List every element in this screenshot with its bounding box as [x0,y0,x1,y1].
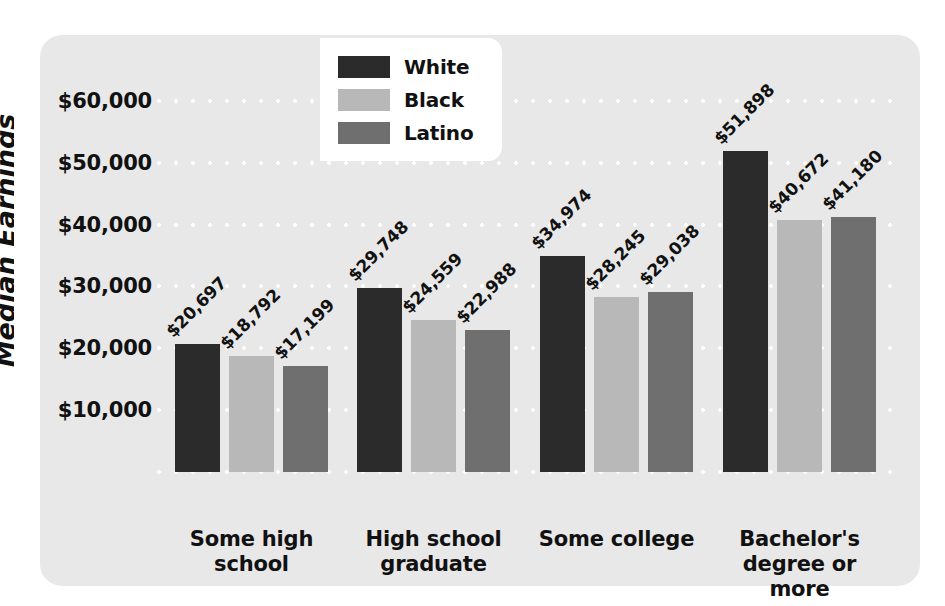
bar-value-label: $40,672 [764,149,832,217]
bar[interactable]: $51,898 [723,151,768,472]
legend-item-label: White [404,55,469,79]
y-axis-tick-label: $10,000 [2,398,152,422]
bar[interactable]: $18,792 [229,356,274,472]
bar-value-label: $28,245 [581,226,649,294]
y-axis: $10,000$20,000$30,000$40,000$50,000$60,0… [2,70,152,472]
bar[interactable]: $17,199 [283,366,328,472]
legend-item-latino[interactable]: Latino [338,116,502,149]
bar[interactable]: $24,559 [411,320,456,472]
legend-item-label: Black [404,88,464,112]
plot-area: $10,000$20,000$30,000$40,000$50,000$60,0… [157,70,903,472]
legend-swatch-icon [338,56,390,78]
category-label: Bachelor'sdegree ormore [690,527,910,601]
chart-card: $10,000$20,000$30,000$40,000$50,000$60,0… [40,35,920,586]
bar[interactable]: $41,180 [831,217,876,472]
bar-value-label: $29,038 [635,221,703,289]
legend-item-white[interactable]: White [338,50,502,83]
bar-value-label: $34,974 [527,184,595,252]
y-axis-tick-label: $20,000 [2,336,152,360]
legend-item-label: Latino [404,121,473,145]
bar-value-label: $29,748 [344,217,412,285]
category-label-line: Bachelor's [690,527,910,552]
legend-swatch-icon [338,122,390,144]
bar-value-label: $51,898 [710,80,778,148]
legend-swatch-icon [338,89,390,111]
bar[interactable]: $29,038 [648,292,693,472]
bar[interactable]: $20,697 [175,344,220,472]
bar[interactable]: $34,974 [540,256,585,472]
bar-value-label: $41,180 [818,146,886,214]
chart-legend: WhiteBlackLatino [320,38,502,161]
legend-item-black[interactable]: Black [338,83,502,116]
y-axis-tick-label: $50,000 [2,151,152,175]
bar[interactable]: $40,672 [777,220,822,472]
bar-value-label: $17,199 [270,294,338,362]
bar[interactable]: $28,245 [594,297,639,472]
y-axis-tick-label: $40,000 [2,213,152,237]
category-label-line: more [690,577,910,602]
y-axis-tick-label: $30,000 [2,274,152,298]
category-label-line: graduate [324,552,544,577]
bar-group: $34,974$28,245$29,038 [540,70,693,472]
bar-value-label: $20,697 [162,273,230,341]
bar-value-label: $18,792 [216,284,284,352]
bar-group: $20,697$18,792$17,199 [175,70,328,472]
bar-group: $51,898$40,672$41,180 [723,70,876,472]
y-axis-tick-label: $60,000 [2,89,152,113]
category-label-line: degree or [690,552,910,577]
bar[interactable]: $22,988 [465,330,510,472]
bar[interactable]: $29,748 [357,288,402,472]
bar-value-label: $22,988 [452,258,520,326]
